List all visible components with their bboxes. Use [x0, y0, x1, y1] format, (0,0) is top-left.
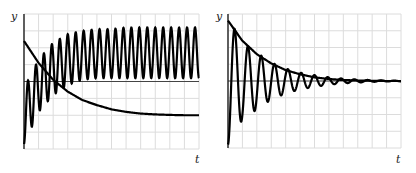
y-axis-label: y [10, 10, 18, 23]
x-axis-label: t [396, 153, 401, 166]
chart-left-plot: y t [0, 0, 208, 173]
chart-left: y t [0, 0, 208, 173]
chart-right: y t [208, 0, 416, 173]
x-axis-label: t [195, 153, 200, 166]
y-axis-label: y [215, 10, 223, 23]
chart-right-plot: y t [208, 0, 416, 173]
